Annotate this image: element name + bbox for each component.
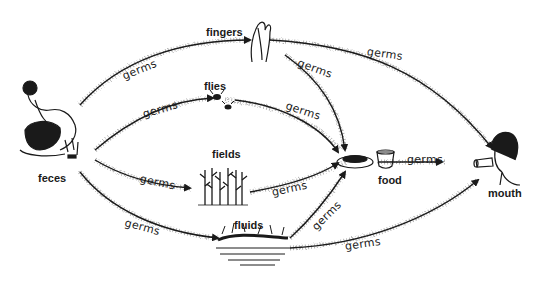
- hand-icon: [251, 22, 270, 62]
- node-label-mouth: mouth: [488, 187, 522, 199]
- transmission-diagram: [0, 0, 538, 283]
- node-label-fields: fields: [212, 148, 241, 160]
- node-label-feces: feces: [38, 172, 66, 184]
- node-label-food: food: [378, 174, 402, 186]
- node-label-flies: flies: [204, 80, 226, 92]
- edge-label-food-mouth: germs: [407, 153, 443, 166]
- squatting-person-icon: [20, 81, 78, 158]
- node-label-fluids: fluids: [234, 219, 263, 231]
- node-label-fingers: fingers: [206, 26, 243, 38]
- drinking-person-icon: [474, 132, 520, 185]
- crops-icon: [198, 168, 248, 205]
- food-icon: [337, 150, 394, 168]
- flies-icon: [210, 90, 234, 110]
